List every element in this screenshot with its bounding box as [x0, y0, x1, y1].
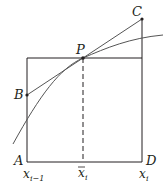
- label-d: D: [145, 153, 157, 168]
- label-c: C: [132, 4, 142, 19]
- axis-label-left: x i−1: [23, 167, 44, 183]
- svg-text:i: i: [85, 173, 88, 182]
- label-a: A: [13, 153, 23, 168]
- label-b: B: [13, 87, 24, 102]
- svg-text:i: i: [146, 174, 149, 183]
- svg-text:x: x: [23, 167, 30, 181]
- point-b-dot: [25, 93, 28, 96]
- svg-text:i−1: i−1: [30, 174, 44, 183]
- axis-label-right: x i: [139, 167, 149, 183]
- label-p: P: [75, 42, 85, 57]
- svg-text:x: x: [78, 166, 85, 180]
- midpoint-rule-diagram: B P C A D x i−1 x i x i: [0, 0, 163, 188]
- axis-label-mid: x i: [78, 166, 88, 182]
- svg-text:x: x: [139, 167, 146, 181]
- rectangle: [27, 19, 142, 162]
